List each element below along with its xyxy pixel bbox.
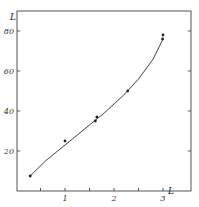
x-tick-label: 2 — [110, 194, 116, 203]
data-point — [161, 38, 164, 41]
y-axis-title: L — [9, 12, 16, 22]
chart: 20406080 123 L L — [0, 0, 199, 207]
y-tick-label: 60 — [4, 67, 14, 76]
x-tick-label: 3 — [160, 194, 165, 203]
x-tick-label: 1 — [62, 194, 67, 203]
x-axis-title: L — [167, 186, 174, 196]
fitted-curve — [30, 39, 163, 176]
x-axis-ticks: 123 — [41, 188, 166, 203]
plot-frame — [17, 11, 191, 191]
data-point — [95, 116, 98, 119]
data-point — [126, 90, 129, 93]
data-point — [64, 140, 67, 143]
y-tick-label: 20 — [3, 147, 14, 156]
data-point — [29, 175, 32, 178]
data-point — [162, 34, 165, 37]
data-points — [29, 34, 165, 178]
y-tick-label: 80 — [4, 27, 14, 36]
data-point — [94, 120, 97, 123]
y-tick-label: 40 — [3, 107, 14, 116]
